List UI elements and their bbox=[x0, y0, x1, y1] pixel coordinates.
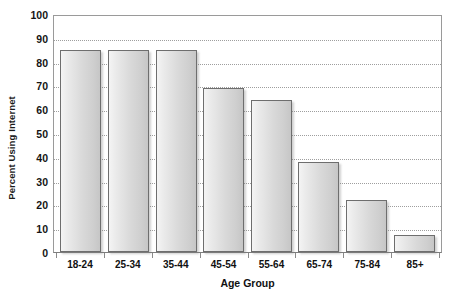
bar-slot bbox=[57, 16, 105, 252]
x-axis-tick-label: 75-84 bbox=[343, 259, 391, 275]
x-axis-tick-label: 65-74 bbox=[295, 259, 343, 275]
x-axis-tick-mark bbox=[104, 253, 105, 258]
bar[interactable] bbox=[203, 88, 244, 252]
bar-slot bbox=[105, 16, 153, 252]
y-axis-tick-label: 40 bbox=[36, 153, 48, 164]
bar[interactable] bbox=[298, 162, 339, 252]
x-axis-tick-mark bbox=[439, 253, 440, 258]
y-axis-tick-label: 50 bbox=[36, 129, 48, 140]
y-axis-tick-label: 80 bbox=[36, 57, 48, 68]
x-axis-tick-mark bbox=[248, 253, 249, 258]
x-axis-tick-mark bbox=[152, 253, 153, 258]
x-axis-tick-labels: 18-2425-3435-4445-5455-6465-7475-8485+ bbox=[53, 259, 442, 275]
x-axis-tick-mark bbox=[343, 253, 344, 258]
bar[interactable] bbox=[346, 200, 387, 252]
y-axis-tick-label: 70 bbox=[36, 81, 48, 92]
bar-slot bbox=[343, 16, 391, 252]
y-axis-tick-label: 0 bbox=[42, 248, 48, 259]
x-axis-tick-label: 45-54 bbox=[200, 259, 248, 275]
y-axis-tick-label: 90 bbox=[36, 34, 48, 45]
bar-slot bbox=[390, 16, 438, 252]
x-axis-tick-label: 18-24 bbox=[56, 259, 104, 275]
y-axis-tick-label: 30 bbox=[36, 176, 48, 187]
bar-slot bbox=[295, 16, 343, 252]
x-axis-tick-label: 35-44 bbox=[152, 259, 200, 275]
x-axis-tick-mark bbox=[295, 253, 296, 258]
x-axis-tick-mark bbox=[391, 253, 392, 258]
bar[interactable] bbox=[108, 50, 149, 252]
bar-slot bbox=[248, 16, 296, 252]
bar-slot bbox=[200, 16, 248, 252]
bar[interactable] bbox=[251, 100, 292, 252]
y-axis-title: Percent Using Internet bbox=[0, 0, 22, 296]
bar-slot bbox=[152, 16, 200, 252]
bar-series bbox=[54, 16, 441, 252]
x-axis-tick-marks bbox=[53, 253, 442, 258]
x-axis-tick-label: 85+ bbox=[391, 259, 439, 275]
bar-chart-figure: Percent Using Internet 10090807060504030… bbox=[0, 0, 453, 296]
bar[interactable] bbox=[60, 50, 101, 252]
y-axis-tick-label: 100 bbox=[30, 10, 48, 21]
y-axis-tick-labels: 1009080706050403020100 bbox=[22, 15, 48, 253]
plot-area bbox=[53, 15, 442, 253]
y-axis-tick-label: 20 bbox=[36, 200, 48, 211]
y-axis-tick-label: 60 bbox=[36, 105, 48, 116]
bar[interactable] bbox=[156, 50, 197, 252]
x-axis-tick-label: 25-34 bbox=[104, 259, 152, 275]
x-axis-tick-mark bbox=[56, 253, 57, 258]
y-axis-tick-label: 10 bbox=[36, 224, 48, 235]
x-axis-title: Age Group bbox=[53, 277, 442, 289]
bar[interactable] bbox=[394, 235, 435, 252]
x-axis-tick-mark bbox=[200, 253, 201, 258]
x-axis-tick-label: 55-64 bbox=[248, 259, 296, 275]
